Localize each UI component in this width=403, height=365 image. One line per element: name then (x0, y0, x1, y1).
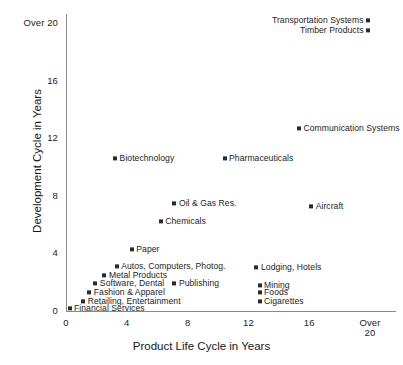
y-tick-over-20: Over 20 (0, 17, 58, 28)
x-tick-12: 12 (243, 318, 254, 328)
data-point: Communication Systems (297, 124, 400, 133)
data-point-marker (172, 282, 176, 286)
data-point-marker (258, 299, 262, 303)
data-point-marker (159, 220, 163, 224)
data-point-label: Paper (136, 244, 159, 254)
data-point-marker (130, 247, 134, 251)
data-point-marker (87, 290, 91, 294)
x-tick-0: 0 (63, 318, 68, 328)
x-axis-title: Product Life Cycle in Years (0, 340, 403, 352)
data-point: Lodging, Hotels (254, 264, 321, 273)
data-point: Financial Services (68, 304, 145, 313)
data-point-marker (113, 156, 117, 160)
data-point-marker (115, 264, 119, 268)
data-point: Timber Products (300, 26, 370, 35)
y-tick-0: 0 (0, 305, 58, 316)
y-tick-8: 8 (0, 189, 58, 200)
data-point: Publishing (172, 279, 219, 288)
y-axis-title: Development Cycle in Years (31, 61, 43, 261)
data-point-label: Publishing (179, 279, 219, 289)
data-point: Cigarettes (258, 297, 304, 306)
data-point-marker (68, 306, 72, 310)
data-point-marker (258, 290, 262, 294)
data-point-label: Pharmaceuticals (229, 153, 293, 163)
data-point-label: Transportation Systems (272, 15, 364, 25)
data-point-label: Aircraft (316, 201, 344, 211)
data-point: Paper (130, 245, 160, 254)
data-point-marker (366, 18, 370, 22)
data-point: Pharmaceuticals (223, 154, 294, 163)
data-point: Aircraft (309, 202, 343, 211)
data-point: Chemicals (159, 218, 206, 227)
data-point-label: Oil & Gas Res. (179, 198, 237, 208)
x-tick-16: 16 (304, 318, 315, 328)
data-point-marker (223, 156, 227, 160)
y-axis-line (66, 14, 67, 311)
y-tick-4: 4 (0, 247, 58, 258)
data-point-label: Chemicals (165, 217, 206, 227)
y-tick-16: 16 (0, 74, 58, 85)
data-point-marker (254, 266, 258, 270)
data-point: Transportation Systems (272, 16, 370, 25)
data-point-marker (258, 283, 262, 287)
data-point-label: Communication Systems (304, 123, 400, 133)
data-point-label: Timber Products (300, 25, 363, 35)
data-point-marker (172, 201, 176, 205)
data-point-marker (366, 28, 370, 32)
data-point-label: Lodging, Hotels (261, 263, 321, 273)
data-point-label: Financial Services (74, 303, 145, 313)
data-point: Oil & Gas Res. (172, 199, 236, 208)
data-point-marker (297, 126, 301, 130)
data-point: Biotechnology (113, 154, 174, 163)
x-tick-8: 8 (185, 318, 190, 328)
scatter-chart: 0481216Over 20 0481216Over20 Transportat… (0, 0, 403, 365)
data-point-marker (102, 273, 106, 277)
data-point-marker (309, 204, 313, 208)
x-tick-4: 4 (124, 318, 129, 328)
x-tick-over-20: Over20 (360, 318, 381, 338)
data-point-marker (93, 282, 97, 286)
data-point-label: Cigarettes (264, 296, 304, 306)
y-tick-12: 12 (0, 132, 58, 143)
data-point-label: Biotechnology (120, 153, 175, 163)
